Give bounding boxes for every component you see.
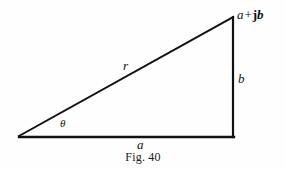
apex-imaginary-part: b <box>257 7 264 22</box>
label-angle-theta: θ <box>60 118 65 129</box>
apex-real-part: a <box>237 7 244 22</box>
label-hypotenuse-r: r <box>123 59 128 72</box>
label-apex-complex-number: a+jb <box>237 8 263 21</box>
figure-container: r θ a b a+jb Fig. 40 <box>0 0 286 169</box>
triangle-side-hypotenuse <box>19 17 233 136</box>
label-vertical-b: b <box>238 72 245 85</box>
apex-plus-operator: + <box>244 7 253 22</box>
figure-caption: Fig. 40 <box>0 150 286 165</box>
